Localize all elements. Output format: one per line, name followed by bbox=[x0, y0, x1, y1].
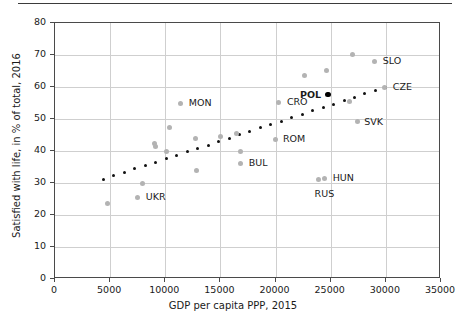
data-point-mon bbox=[178, 101, 183, 106]
gridline-vertical bbox=[220, 23, 221, 277]
trendline-dot bbox=[186, 150, 189, 153]
data-point-rus bbox=[316, 177, 321, 182]
x-tick-label: 0 bbox=[24, 285, 84, 295]
x-tick-mark bbox=[330, 278, 331, 282]
gridline-horizontal bbox=[55, 247, 439, 248]
y-tick-label: 20 bbox=[2, 209, 46, 219]
y-tick-mark bbox=[50, 54, 54, 55]
data-point-slo bbox=[372, 59, 377, 64]
trendline-dot bbox=[196, 147, 199, 150]
trendline-dot bbox=[332, 103, 335, 106]
trendline-dot bbox=[322, 106, 325, 109]
x-tick-label: 25000 bbox=[300, 285, 360, 295]
x-tick-label: 15000 bbox=[189, 285, 249, 295]
trendline-dot bbox=[175, 154, 178, 157]
trendline-dot bbox=[280, 120, 283, 123]
data-point-rom bbox=[273, 137, 278, 142]
trendline-dot bbox=[133, 167, 136, 170]
point-label-hun: HUN bbox=[333, 173, 354, 183]
data-point bbox=[194, 168, 199, 173]
data-point bbox=[164, 149, 169, 154]
trendline-dot bbox=[123, 171, 126, 174]
point-label-bul: BUL bbox=[249, 158, 268, 168]
x-tick-mark bbox=[440, 278, 441, 282]
x-tick-label: 35000 bbox=[410, 285, 466, 295]
trendline-dot bbox=[144, 164, 147, 167]
data-point bbox=[218, 134, 223, 139]
y-tick-mark bbox=[50, 118, 54, 119]
gridline-horizontal bbox=[55, 215, 439, 216]
y-tick-label: 80 bbox=[2, 17, 46, 27]
point-label-rus: RUS bbox=[315, 189, 335, 199]
x-tick-label: 5000 bbox=[79, 285, 139, 295]
trendline-dot bbox=[269, 123, 272, 126]
data-point bbox=[167, 125, 172, 130]
y-tick-mark bbox=[50, 86, 54, 87]
y-tick-label: 50 bbox=[2, 113, 46, 123]
x-tick-mark bbox=[54, 278, 55, 282]
trendline-dot bbox=[154, 161, 157, 164]
y-tick-mark bbox=[50, 182, 54, 183]
x-tick-mark bbox=[219, 278, 220, 282]
trendline-dot bbox=[353, 96, 356, 99]
data-point bbox=[347, 99, 352, 104]
gridline-vertical bbox=[276, 23, 277, 277]
y-axis-title: Satisfied with life, in % of total, 2016 bbox=[11, 46, 22, 246]
data-point bbox=[302, 73, 307, 78]
trendline-dot bbox=[207, 144, 210, 147]
x-tick-mark bbox=[164, 278, 165, 282]
data-point-hun bbox=[322, 176, 327, 181]
y-tick-label: 0 bbox=[2, 273, 46, 283]
y-tick-mark bbox=[50, 22, 54, 23]
data-point-svk bbox=[355, 119, 360, 124]
x-axis-title: GDP per capita PPP, 2015 bbox=[0, 300, 466, 311]
point-label-rom: ROM bbox=[283, 134, 305, 144]
x-tick-mark bbox=[385, 278, 386, 282]
data-point bbox=[350, 52, 355, 57]
trendline-dot bbox=[228, 137, 231, 140]
trendline-dot bbox=[363, 92, 366, 95]
point-label-svk: SVK bbox=[364, 117, 383, 127]
x-tick-mark bbox=[109, 278, 110, 282]
trendline-dot bbox=[311, 109, 314, 112]
data-point-ukr bbox=[135, 195, 140, 200]
data-point bbox=[238, 149, 243, 154]
trendline-dot bbox=[374, 89, 377, 92]
data-point bbox=[193, 136, 198, 141]
x-tick-label: 10000 bbox=[134, 285, 194, 295]
x-tick-label: 30000 bbox=[355, 285, 415, 295]
trendline-dot bbox=[165, 157, 168, 160]
y-tick-mark bbox=[50, 214, 54, 215]
gridline-horizontal bbox=[55, 151, 439, 152]
y-tick-label: 30 bbox=[2, 177, 46, 187]
gridline-vertical bbox=[110, 23, 111, 277]
gridline-horizontal bbox=[55, 183, 439, 184]
point-label-pol: POL bbox=[300, 90, 321, 100]
y-tick-label: 40 bbox=[2, 145, 46, 155]
trendline-dot bbox=[248, 130, 251, 133]
data-point bbox=[140, 181, 145, 186]
data-point bbox=[153, 144, 158, 149]
trendline-dot bbox=[112, 174, 115, 177]
point-label-mon: MON bbox=[189, 98, 212, 108]
gridline-vertical bbox=[331, 23, 332, 277]
trendline-dot bbox=[343, 99, 346, 102]
point-label-ukr: UKR bbox=[146, 192, 166, 202]
point-label-slo: SLO bbox=[383, 56, 401, 66]
gridline-horizontal bbox=[55, 55, 439, 56]
data-point bbox=[324, 68, 329, 73]
trendline-dot bbox=[102, 178, 105, 181]
header-rule bbox=[18, 3, 452, 4]
x-tick-label: 20000 bbox=[245, 285, 305, 295]
y-tick-label: 70 bbox=[2, 49, 46, 59]
y-tick-label: 60 bbox=[2, 81, 46, 91]
x-tick-mark bbox=[275, 278, 276, 282]
data-point-bul bbox=[238, 161, 243, 166]
data-point-cze bbox=[382, 85, 387, 90]
trendline-dot bbox=[259, 126, 262, 129]
y-tick-label: 10 bbox=[2, 241, 46, 251]
data-point-cro bbox=[276, 100, 281, 105]
scatter-chart-figure: 01020304050607080 0500010000150002000025… bbox=[0, 0, 466, 323]
trendline-dot bbox=[301, 113, 304, 116]
y-tick-mark bbox=[50, 246, 54, 247]
